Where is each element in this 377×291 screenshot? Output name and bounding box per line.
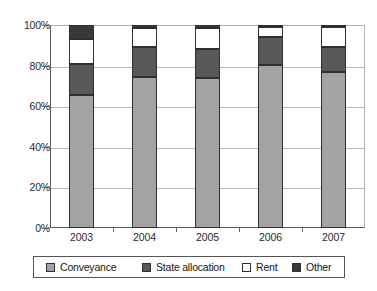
legend-label: Other — [306, 262, 331, 273]
bar-segment-state-allocation — [69, 64, 94, 95]
bar-segment-rent — [195, 28, 220, 49]
y-tick-mark — [44, 66, 49, 67]
x-tick-mark — [176, 228, 177, 232]
y-axis: 0%20%40%60%80%100% — [0, 25, 50, 228]
x-tick-label: 2005 — [176, 231, 239, 243]
bar-segment-conveyance — [321, 72, 346, 228]
legend-item-rent[interactable]: Rent — [242, 257, 277, 277]
x-tick-mark — [113, 228, 114, 232]
bar-stack — [195, 25, 220, 228]
bar-segment-rent — [132, 28, 157, 47]
y-tick-mark — [44, 228, 49, 229]
bar-segment-other — [258, 25, 283, 27]
bar-segment-rent — [258, 27, 283, 37]
bar-segment-other — [69, 25, 94, 39]
legend-item-other[interactable]: Other — [292, 257, 331, 277]
bar-segment-state-allocation — [258, 37, 283, 64]
bar-stack — [132, 25, 157, 228]
stacked-bar-chart: 0%20%40%60%80%100% 20032004200520062007 … — [0, 0, 377, 291]
legend-label: Rent — [256, 262, 277, 273]
y-tick-mark — [44, 106, 49, 107]
y-tick-mark — [44, 147, 49, 148]
legend-item-state-allocation[interactable]: State allocation — [142, 257, 225, 277]
x-tick-mark — [302, 228, 303, 232]
legend-label: Conveyance — [60, 262, 116, 273]
bar-segment-state-allocation — [132, 47, 157, 76]
y-tick-mark — [44, 187, 49, 188]
x-tick-mark — [239, 228, 240, 232]
bar-stack — [69, 25, 94, 228]
legend-swatch-icon — [292, 263, 301, 272]
bar-segment-conveyance — [258, 65, 283, 228]
bar-segment-state-allocation — [195, 49, 220, 77]
legend-item-conveyance[interactable]: Conveyance — [46, 257, 116, 277]
chart-legend: ConveyanceState allocationRentOther — [33, 256, 345, 278]
bar-segment-other — [321, 25, 346, 27]
bar-segment-other — [195, 25, 220, 28]
legend-swatch-icon — [142, 263, 151, 272]
bar-segment-rent — [321, 27, 346, 47]
legend-swatch-icon — [46, 263, 55, 272]
bar-stack — [258, 25, 283, 228]
bar-segment-other — [132, 25, 157, 28]
bar-segment-rent — [69, 39, 94, 63]
legend-label: State allocation — [156, 262, 225, 273]
x-tick-label: 2007 — [302, 231, 365, 243]
bars-layer — [50, 25, 365, 228]
legend-swatch-icon — [242, 263, 251, 272]
x-axis: 20032004200520062007 — [50, 231, 365, 249]
bar-segment-state-allocation — [321, 47, 346, 71]
bar-segment-conveyance — [132, 77, 157, 228]
bar-stack — [321, 25, 346, 228]
bar-segment-conveyance — [195, 78, 220, 228]
x-tick-label: 2003 — [50, 231, 113, 243]
x-tick-label: 2006 — [239, 231, 302, 243]
x-tick-label: 2004 — [113, 231, 176, 243]
y-tick-mark — [44, 25, 49, 26]
bar-segment-conveyance — [69, 95, 94, 228]
